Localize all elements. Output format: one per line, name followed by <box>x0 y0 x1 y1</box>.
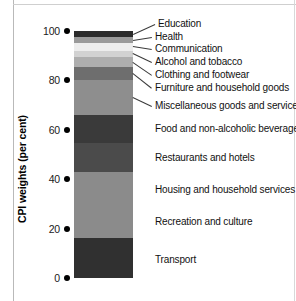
leader-line <box>133 24 155 35</box>
y-axis-tick-label-60: 60 <box>20 124 60 136</box>
bar-segment <box>74 67 133 81</box>
y-axis-tick-label-100: 100 <box>20 25 60 37</box>
y-axis-tick-label-40: 40 <box>20 173 60 185</box>
bar-segment <box>74 172 133 205</box>
leader-line <box>132 73 152 89</box>
segment-label: Furniture and household goods <box>155 82 289 94</box>
segment-label: Health <box>155 31 183 43</box>
leader-line <box>133 97 152 107</box>
segment-label: Miscellaneous goods and services <box>155 100 296 112</box>
segment-label: Housing and household services <box>155 184 295 196</box>
segment-label: Clothing and footwear <box>155 69 249 81</box>
y-axis-tick-marker-80 <box>64 77 70 83</box>
y-axis-tick-marker-20 <box>64 226 70 232</box>
leader-line <box>133 46 152 50</box>
y-axis-tick-label-80: 80 <box>20 74 60 86</box>
leader-line <box>132 62 152 76</box>
bar-segment <box>74 80 133 115</box>
segment-label: Education <box>158 18 201 30</box>
bar-segment <box>74 57 133 67</box>
stacked-bar <box>74 31 133 278</box>
y-axis-tick-marker-60 <box>64 127 70 133</box>
y-axis-tick-marker-0 <box>64 275 70 281</box>
segment-label: Recreation and culture <box>155 216 252 228</box>
segment-label: Food and non-alcoholic beverages <box>155 123 296 135</box>
y-axis-tick-label-20: 20 <box>20 223 60 235</box>
segment-label: Restaurants and hotels <box>155 152 255 164</box>
page-frame-left-rule <box>13 0 14 301</box>
y-axis-title: CPI weights (per cent) <box>16 74 28 264</box>
bar-segment <box>74 238 133 278</box>
bar-segment <box>74 115 133 143</box>
leader-line <box>133 37 152 41</box>
y-axis-tick-label-0: 0 <box>20 272 60 284</box>
bar-segment <box>74 143 133 171</box>
segment-label: Communication <box>155 43 223 55</box>
segment-label: Transport <box>155 254 196 266</box>
y-axis-tick-marker-100 <box>64 28 70 34</box>
y-axis-tick-marker-40 <box>64 176 70 182</box>
page-frame-right-rule <box>294 0 295 301</box>
bar-segment <box>74 43 133 50</box>
bar-segment <box>74 205 133 238</box>
page-frame-top-rule <box>13 4 296 5</box>
cpi-weights-figure: CPI weights (per cent) 100806040200 Educ… <box>0 0 296 301</box>
segment-label: Alcohol and tobacco <box>155 56 242 68</box>
leader-line <box>133 53 152 63</box>
